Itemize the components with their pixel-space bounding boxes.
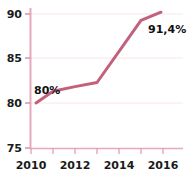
x-axis-label-2014: 2014 (102, 160, 136, 171)
y-axis-ticks (25, 14, 30, 148)
annotation-start-value: 80% (34, 85, 60, 96)
annotation-end-value: 91,4% (148, 24, 186, 35)
line-chart: 90 85 80 75 2010 2012 2014 2016 80% 91,4… (0, 0, 187, 179)
x-axis-label-2016: 2016 (146, 160, 180, 171)
x-axis-label-2012: 2012 (58, 160, 92, 171)
y-axis-label-90: 90 (0, 9, 22, 20)
y-axis-label-75: 75 (0, 143, 22, 154)
y-axis-label-80: 80 (0, 98, 22, 109)
y-axis-label-85: 85 (0, 53, 22, 64)
x-axis-label-2010: 2010 (14, 160, 48, 171)
